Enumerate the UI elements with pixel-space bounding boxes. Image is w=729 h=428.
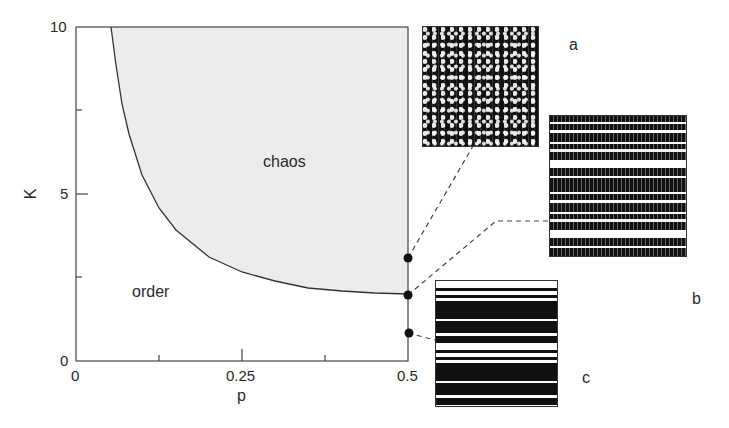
y-tick-10: 10 xyxy=(50,19,67,34)
x-axis-label: p xyxy=(237,388,246,404)
inset-c-label: c xyxy=(582,370,590,386)
inset-c-ordered-pattern xyxy=(435,280,558,407)
marker-c xyxy=(405,329,414,338)
x-ticks xyxy=(159,349,325,361)
y-axis-label: K xyxy=(23,189,39,200)
x-tick-0.25: 0.25 xyxy=(226,368,255,383)
inset-a-label: a xyxy=(569,37,578,53)
y-tick-0: 0 xyxy=(60,353,68,368)
inset-b-label: b xyxy=(692,291,701,307)
marker-b xyxy=(404,291,413,300)
x-tick-0: 0 xyxy=(71,368,79,383)
inset-b-critical-pattern xyxy=(549,115,687,257)
y-ticks xyxy=(76,110,88,277)
connector-a xyxy=(408,146,473,258)
x-tick-0.5: 0.5 xyxy=(397,368,418,383)
order-label: order xyxy=(132,284,169,300)
y-tick-5: 5 xyxy=(60,186,68,201)
chaos-label: chaos xyxy=(263,154,306,170)
chaos-region-fill xyxy=(111,27,408,294)
inset-a-chaotic-pattern xyxy=(422,26,539,147)
marker-a xyxy=(404,254,413,263)
